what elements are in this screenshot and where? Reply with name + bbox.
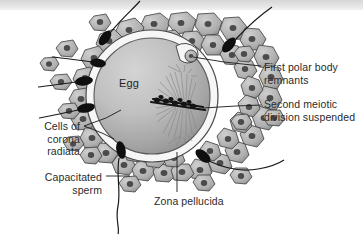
label-first-polar-body: First polar body remnants: [264, 61, 338, 86]
label-capacitated-sperm: Capacitated sperm: [4, 171, 102, 196]
label-cells-of-corona-radiata: Cells of corona radiata: [4, 120, 80, 158]
label-zona-pellucida: Zona pellucida: [154, 195, 224, 208]
label-egg: Egg: [119, 77, 139, 90]
label-second-meiotic-division: Second meiotic division suspended: [264, 98, 355, 123]
